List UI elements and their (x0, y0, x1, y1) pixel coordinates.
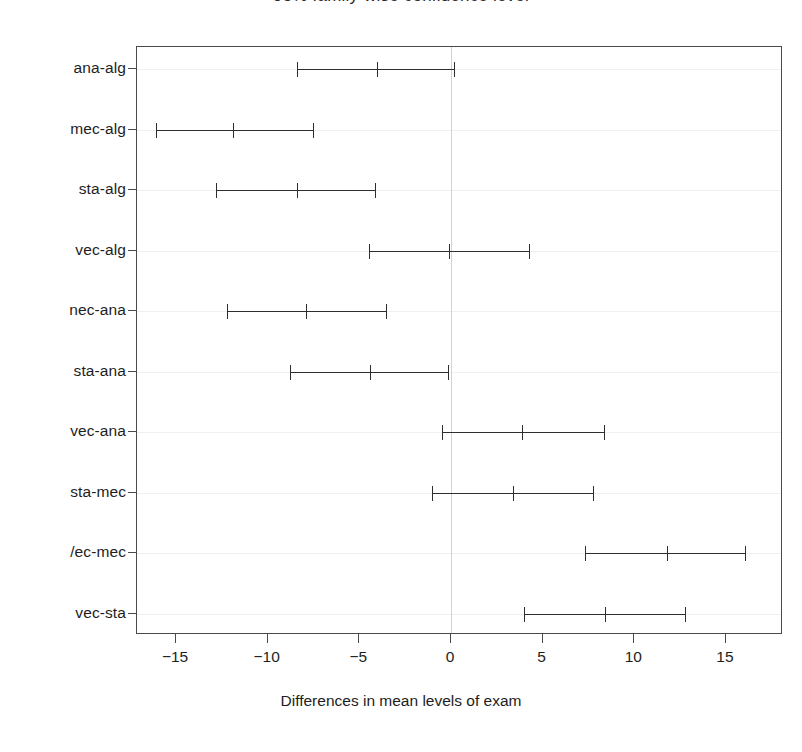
x-axis-tick (725, 634, 726, 643)
interval-right-cap (593, 486, 594, 501)
interval-right-cap (529, 244, 530, 259)
y-axis-tick (128, 492, 137, 493)
x-axis-tick (267, 634, 268, 643)
confidence-interval-vec-ana (442, 432, 605, 433)
interval-left-cap (297, 62, 298, 77)
y-axis-tick (128, 431, 137, 432)
interval-center-marker (667, 546, 668, 561)
interval-right-cap (375, 183, 376, 198)
x-axis-label: −15 (162, 648, 188, 666)
tukey-confidence-interval-plot: 95% family-wise confidence level ana-alg… (0, 0, 802, 752)
confidence-interval-mec-ana (227, 311, 386, 312)
y-axis-tick (128, 68, 137, 69)
x-axis-label: 0 (446, 648, 455, 666)
zero-reference-line (451, 47, 452, 633)
y-axis-label-vec-ana: vec-ana (70, 422, 126, 440)
interval-left-cap (585, 546, 586, 561)
y-axis-label-sta-mec: sta-mec (70, 483, 126, 501)
interval-line (156, 130, 314, 131)
interval-left-cap (369, 244, 370, 259)
interval-center-marker (306, 304, 307, 319)
plot-area (136, 46, 782, 634)
confidence-interval-vec-sta (524, 614, 685, 615)
x-axis-label: −10 (254, 648, 280, 666)
chart-title: 95% family-wise confidence level (0, 0, 802, 4)
interval-left-cap (432, 486, 433, 501)
interval-right-cap (685, 607, 686, 622)
interval-center-marker (522, 425, 523, 440)
y-axis-tick (128, 129, 137, 130)
interval-center-marker (377, 62, 378, 77)
interval-right-cap (448, 365, 449, 380)
interval-left-cap (442, 425, 443, 440)
y-axis-tick (128, 250, 137, 251)
y-axis-label-vec-alg: vec-alg (75, 241, 126, 259)
x-axis-tick (175, 634, 176, 643)
x-axis-tick (358, 634, 359, 643)
y-axis-label-vec-sta: vec-sta (75, 604, 126, 622)
interval-right-cap (313, 123, 314, 138)
y-axis-label-vec-mec: /ec-mec (70, 543, 126, 561)
confidence-interval-sta-mec (432, 493, 594, 494)
x-axis-label: −5 (350, 648, 368, 666)
interval-right-cap (745, 546, 746, 561)
interval-right-cap (454, 62, 455, 77)
confidence-interval-vec-mec (585, 553, 746, 554)
confidence-interval-vec-alg (369, 251, 530, 252)
interval-left-cap (156, 123, 157, 138)
confidence-interval-mec-alg (156, 130, 314, 131)
interval-center-marker (297, 183, 298, 198)
interval-left-cap (524, 607, 525, 622)
interval-center-marker (513, 486, 514, 501)
interval-left-cap (216, 183, 217, 198)
x-axis-label: 5 (537, 648, 546, 666)
y-axis-label-sta-ana: sta-ana (74, 362, 126, 380)
confidence-interval-sta-ana (290, 372, 449, 373)
x-axis-tick (542, 634, 543, 643)
x-axis-label: 15 (716, 648, 733, 666)
confidence-interval-sta-alg (216, 190, 375, 191)
interval-right-cap (604, 425, 605, 440)
y-axis-label-sta-alg: sta-alg (79, 180, 126, 198)
x-axis-tick (633, 634, 634, 643)
y-axis-tick (128, 371, 137, 372)
interval-line (585, 553, 746, 554)
gridline (137, 372, 781, 373)
interval-left-cap (227, 304, 228, 319)
y-axis-tick (128, 613, 137, 614)
interval-center-marker (233, 123, 234, 138)
x-axis-tick (450, 634, 451, 643)
gridline (137, 69, 781, 70)
x-axis-title: Differences in mean levels of exam (0, 692, 802, 710)
interval-right-cap (386, 304, 387, 319)
y-axis-label-ana-alg: ana-alg (74, 59, 126, 77)
interval-center-marker (605, 607, 606, 622)
y-axis-tick (128, 189, 137, 190)
y-axis-label-mec-alg: mec-alg (70, 120, 126, 138)
x-axis-label: 10 (625, 648, 642, 666)
interval-center-marker (449, 244, 450, 259)
confidence-interval-ana-alg (297, 69, 455, 70)
y-axis-tick (128, 552, 137, 553)
y-axis-label-mec-ana: nec-ana (69, 301, 126, 319)
interval-center-marker (370, 365, 371, 380)
interval-left-cap (290, 365, 291, 380)
y-axis-tick (128, 310, 137, 311)
